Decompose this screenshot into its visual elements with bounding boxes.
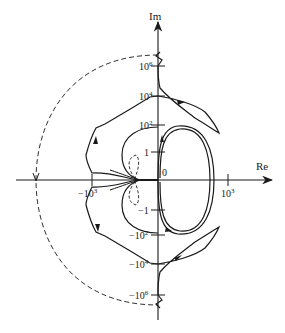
tick-label-1: 1 bbox=[144, 147, 149, 158]
labels: Im Re 0 106 104 102 1 −1 −102 −104 −106 … bbox=[78, 10, 268, 301]
outer-branch-lower bbox=[86, 180, 219, 308]
re-axis-label: Re bbox=[256, 160, 268, 172]
outer-branch-upper bbox=[86, 52, 219, 180]
tick-label-neg1e4: −104 bbox=[129, 258, 149, 270]
nyquist-diagram: Im Re 0 106 104 102 1 −1 −102 −104 −106 … bbox=[0, 0, 285, 333]
re-tick-label-1e3: 103 bbox=[221, 187, 235, 199]
nyquist-plot-svg: Im Re 0 106 104 102 1 −1 −102 −104 −106 … bbox=[0, 0, 285, 333]
arrow-upper-branch bbox=[93, 136, 98, 144]
tick-label-neg1e2: −102 bbox=[129, 229, 149, 241]
re-tick-label-neg1e3: −103 bbox=[78, 187, 98, 199]
tick-label-1e4: 104 bbox=[139, 90, 153, 102]
im-axis-label: Im bbox=[149, 10, 162, 22]
tick-label-neg1: −1 bbox=[138, 205, 149, 216]
tick-label-1e6: 106 bbox=[139, 60, 153, 72]
origin-label: 0 bbox=[162, 167, 167, 178]
tick-label-neg1e6: −106 bbox=[129, 289, 149, 301]
tick-label-1e2: 102 bbox=[139, 119, 153, 131]
